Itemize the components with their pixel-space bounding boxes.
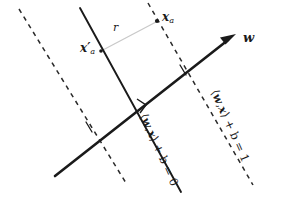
data-point-marker-xa-prime: [99, 49, 103, 53]
weight-vector-arrow-line: [55, 40, 228, 176]
data-point-marker-xa: [155, 19, 159, 23]
label-weight-vector: w: [243, 31, 254, 44]
distance-connector-line: [101, 22, 156, 51]
label-point-xa-subscript: a: [169, 15, 174, 25]
dashed-margin-line-left: [19, 9, 126, 183]
label-point-xa-prime-subscript: a: [90, 46, 95, 56]
diagram-canvas: [0, 0, 284, 199]
label-point-xa-prime: x′a: [80, 42, 95, 55]
label-distance-r: r: [113, 22, 118, 33]
svm-margin-figure: xa x′a r w ⟨w,x⟩ + b = 0 ⟨w,x⟩ + b = 1: [0, 0, 284, 199]
label-point-xa: xa: [162, 11, 174, 24]
